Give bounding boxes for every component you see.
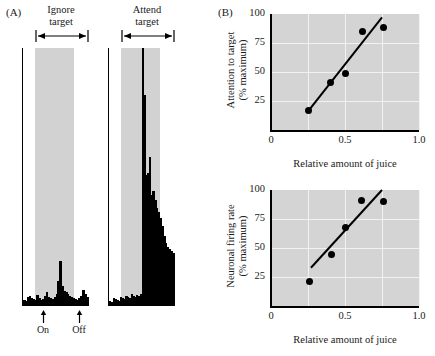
chart-attention-to-target: 255075100 00.51.0 Attention to target (%… <box>215 0 435 180</box>
arrow-up-icon <box>76 310 83 323</box>
histogram-ignore-target <box>22 48 88 306</box>
chart-neuronal-firing-rate: 255075100 00.51.0 Neuronal firing rate (… <box>215 176 435 356</box>
data-point <box>358 197 365 204</box>
y-axis-label-attention: Attention to target (% maximum) <box>225 12 249 128</box>
y-axis-label-firing-rate-line1: Neuronal firing rate <box>225 204 236 287</box>
regression-line-firing-rate <box>271 190 419 306</box>
histogram-title-attend-line1: Attend <box>133 4 162 15</box>
y-axis-label-attention-line1: Attention to target <box>225 32 236 109</box>
histogram-title-ignore-line1: Ignore <box>47 4 74 15</box>
stimulus-on-label: On <box>37 324 49 335</box>
arrow-up-icon <box>40 310 47 323</box>
y-axis-label-attention-line2: (% maximum) <box>237 40 248 101</box>
stimulus-duration-arrow-attend-icon <box>121 29 175 43</box>
y-axis-label-firing-rate: Neuronal firing rate (% maximum) <box>225 186 249 306</box>
x-tick-label: 0.5 <box>333 134 357 145</box>
histogram-attend-baseline <box>108 305 174 306</box>
gridline-vertical <box>419 190 420 306</box>
data-point <box>342 224 349 231</box>
histogram-bar <box>172 253 174 306</box>
histogram-title-attend-line2: target <box>135 16 159 27</box>
stimulus-off-label: Off <box>72 324 86 335</box>
stimulus-duration-arrow-ignore-icon <box>35 29 89 43</box>
x-axis-firing-rate <box>270 306 419 308</box>
stimulus-off-marker: Off <box>66 310 92 335</box>
histogram-ignore-bars <box>23 48 88 306</box>
stimulus-on-marker: On <box>30 310 56 335</box>
x-axis-attention <box>270 130 419 132</box>
histogram-title-ignore: Ignore target <box>18 4 104 27</box>
x-tick-label: 0 <box>259 134 283 145</box>
data-point <box>342 70 349 77</box>
panel-b: (B) 255075100 00.51.0 Attention to targe… <box>215 0 435 356</box>
x-tick-label: 1.0 <box>407 134 431 145</box>
panel-a: (A) Ignore target Attend target <box>0 0 215 356</box>
data-point <box>305 107 312 114</box>
x-tick-label: 0.5 <box>333 310 357 321</box>
histogram-title-ignore-line2: target <box>49 16 73 27</box>
histogram-title-attend: Attend target <box>104 4 190 27</box>
histogram-attend-target <box>108 48 174 306</box>
data-point <box>380 198 387 205</box>
x-axis-label-attention: Relative amount of juice <box>265 158 425 169</box>
y-axis-label-firing-rate-line2: (% maximum) <box>237 216 248 277</box>
x-tick-label: 1.0 <box>407 310 431 321</box>
histogram-ignore-baseline <box>22 305 88 306</box>
x-tick-label: 0 <box>259 310 283 321</box>
data-point <box>327 79 334 86</box>
histogram-attend-bars <box>109 48 174 306</box>
gridline-vertical <box>419 14 420 130</box>
x-axis-label-firing-rate: Relative amount of juice <box>265 334 425 345</box>
